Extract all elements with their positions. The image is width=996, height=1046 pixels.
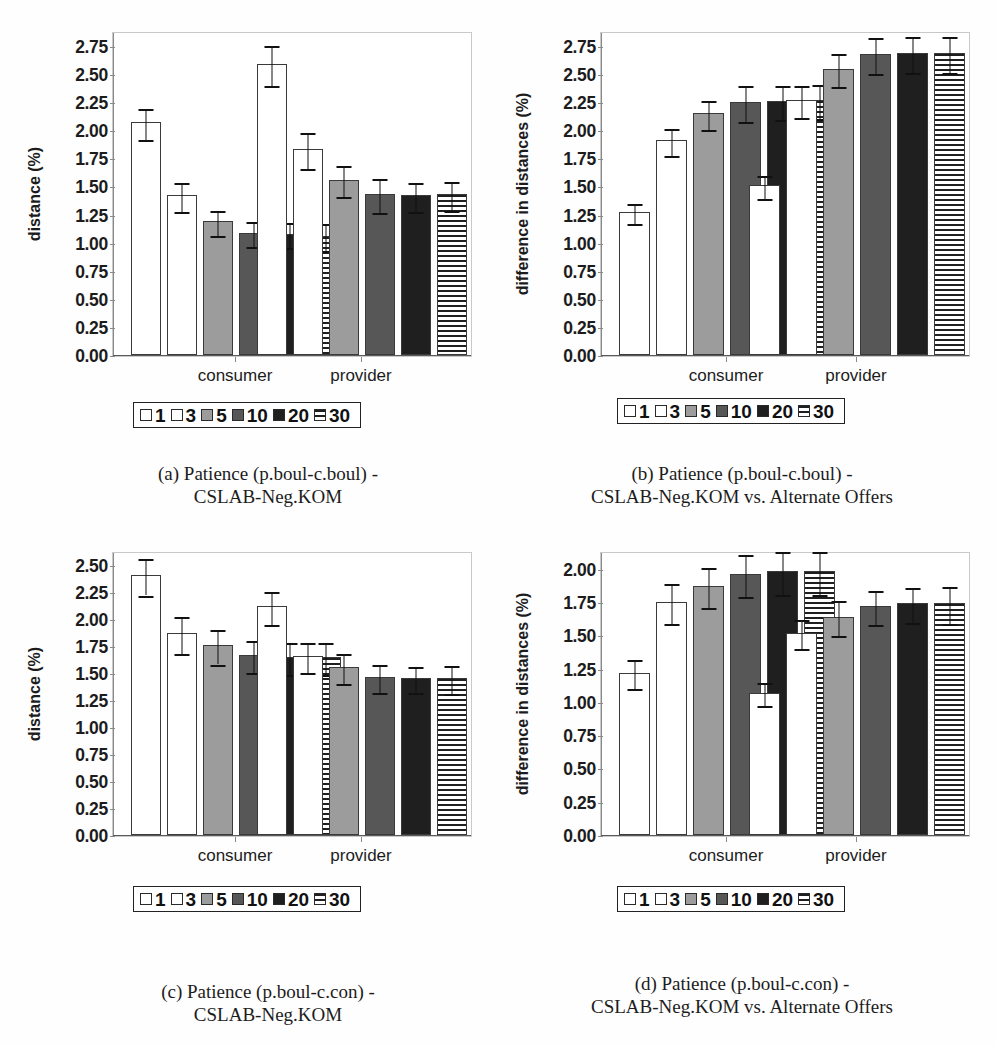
legend-item-5[interactable]: 5 — [685, 402, 715, 421]
legend-item-5[interactable]: 5 — [685, 890, 715, 909]
legend-item-10[interactable]: 10 — [232, 406, 272, 425]
legend-item-30[interactable]: 30 — [798, 402, 838, 421]
error-bar-line — [182, 183, 183, 212]
error-bar-line — [782, 86, 783, 120]
legend-item-1[interactable]: 1 — [140, 890, 170, 909]
error-bar-cap-bottom — [775, 120, 790, 122]
error-bar-cap-bottom — [319, 251, 334, 253]
legend-swatch-20 — [757, 405, 769, 417]
error-bar-cap-top — [265, 46, 280, 48]
y-tick-mark — [110, 159, 115, 160]
legend-item-20[interactable]: 20 — [273, 890, 313, 909]
caption-d: (d) Patience (p.boul-c.con) -CSLAB-Neg.K… — [502, 972, 982, 1018]
y-tick-mark — [110, 674, 115, 675]
bar-consumer-5 — [693, 113, 724, 355]
error-bar-cap-bottom — [247, 673, 262, 675]
legend-label-30: 30 — [329, 890, 354, 909]
bar-consumer-5 — [203, 221, 233, 355]
legend-item-3[interactable]: 3 — [171, 890, 201, 909]
legend-item-30[interactable]: 30 — [314, 406, 354, 425]
legend-swatch-3 — [655, 405, 667, 417]
legend-item-10[interactable]: 10 — [232, 890, 272, 909]
y-tick-mark — [110, 593, 115, 594]
y-tick-mark — [110, 728, 115, 729]
legend-item-1[interactable]: 1 — [140, 406, 170, 425]
bar-provider-5 — [329, 667, 359, 835]
legend-item-5[interactable]: 5 — [201, 890, 231, 909]
legend-item-20[interactable]: 20 — [273, 406, 313, 425]
x-group-label-provider: provider — [330, 846, 391, 866]
y-tick-mark — [598, 803, 603, 804]
chart-panel-c: 0.000.250.500.751.001.251.501.752.002.25… — [0, 0, 996, 1046]
legend-item-3[interactable]: 3 — [655, 402, 685, 421]
y-tick-mark — [598, 159, 603, 160]
x-group-label-consumer: consumer — [198, 366, 273, 386]
legend-item-30[interactable]: 30 — [798, 890, 838, 909]
bar-consumer-1 — [131, 122, 161, 355]
y-axis-line — [113, 33, 114, 356]
y-tick-label: 0.00 — [46, 346, 108, 367]
error-bar-cap-bottom — [301, 673, 316, 675]
bar-consumer-1 — [131, 575, 161, 835]
error-bar-line — [308, 643, 309, 673]
error-bar-cap-top — [664, 584, 679, 586]
legend-item-1[interactable]: 1 — [624, 402, 654, 421]
legend-item-20[interactable]: 20 — [757, 402, 797, 421]
error-bar-cap-bottom — [265, 86, 280, 88]
y-tick-mark — [110, 809, 115, 810]
legend-item-10[interactable]: 10 — [716, 402, 756, 421]
error-bar-line — [912, 37, 913, 73]
x-tick-mark — [235, 837, 236, 842]
y-tick-mark — [598, 131, 603, 132]
y-tick-label: 0.00 — [46, 826, 108, 847]
bar-provider-3 — [786, 100, 817, 355]
legend-c[interactable]: 135102030 — [133, 886, 361, 912]
legend-d[interactable]: 135102030 — [617, 886, 845, 912]
error-bar-cap-top — [701, 568, 716, 570]
legend-item-3[interactable]: 3 — [655, 890, 685, 909]
legend-label-5: 5 — [700, 890, 715, 909]
legend-item-30[interactable]: 30 — [314, 890, 354, 909]
legend-item-20[interactable]: 20 — [757, 890, 797, 909]
plot-area-a — [112, 32, 472, 357]
error-bar-cap-bottom — [175, 654, 190, 656]
x-axis-line — [113, 355, 471, 356]
error-bar-line — [745, 555, 746, 598]
caption-line-2: CSLAB-Neg.KOM — [40, 485, 496, 508]
y-tick-label: 2.75 — [534, 37, 596, 58]
legend-a[interactable]: 135102030 — [133, 402, 361, 428]
legend-b[interactable]: 135102030 — [617, 398, 845, 424]
legend-label-1: 1 — [155, 406, 170, 425]
error-bar-cap-bottom — [409, 693, 424, 695]
legend-item-5[interactable]: 5 — [201, 406, 231, 425]
legend-label-10: 10 — [247, 406, 272, 425]
error-bar-cap-bottom — [247, 247, 262, 249]
error-bar-cap-bottom — [794, 118, 809, 120]
error-bar-cap-top — [175, 183, 190, 185]
y-tick-mark — [598, 244, 603, 245]
caption-b: (b) Patience (p.boul-c.boul) -CSLAB-Neg.… — [502, 462, 982, 508]
bar-provider-30 — [934, 53, 965, 355]
error-bar-line — [875, 38, 876, 74]
error-bar-line — [838, 54, 839, 88]
error-bar-cap-bottom — [831, 636, 846, 638]
legend-item-1[interactable]: 1 — [624, 890, 654, 909]
legend-label-1: 1 — [155, 890, 170, 909]
legend-label-5: 5 — [216, 406, 231, 425]
legend-swatch-30 — [314, 409, 326, 421]
error-bar-line — [949, 587, 950, 624]
legend-item-10[interactable]: 10 — [716, 890, 756, 909]
bar-consumer-3 — [656, 140, 687, 355]
x-tick-mark — [726, 837, 727, 842]
legend-label-10: 10 — [247, 890, 272, 909]
error-bar-cap-top — [868, 38, 883, 40]
y-tick-mark — [110, 300, 115, 301]
legend-swatch-20 — [273, 409, 285, 421]
legend-item-3[interactable]: 3 — [171, 406, 201, 425]
error-bar-cap-bottom — [738, 122, 753, 124]
plot-area-b — [600, 32, 970, 357]
error-bar-line — [875, 591, 876, 626]
y-tick-mark — [110, 75, 115, 76]
y-tick-mark — [598, 636, 603, 637]
error-bar-cap-bottom — [812, 119, 827, 121]
